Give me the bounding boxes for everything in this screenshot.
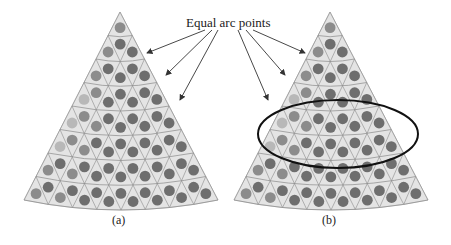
fuel-rod-circle: [67, 135, 78, 146]
fuel-rod-circle: [91, 87, 102, 98]
fuel-rod-circle: [139, 87, 150, 98]
fuel-rod-circle: [289, 145, 300, 156]
fuel-rod-circle: [301, 121, 312, 132]
fuel-rod-circle: [91, 121, 102, 132]
fuel-rod-circle: [325, 22, 336, 33]
fuel-rod-circle: [164, 168, 175, 179]
arrow-icon: [246, 30, 285, 75]
fuel-rod-circle: [55, 141, 66, 152]
fuel-rod-circle: [91, 171, 102, 182]
arrow-icon: [180, 30, 218, 100]
fuel-rod-circle: [337, 47, 348, 58]
fuel-rod-circle: [325, 122, 336, 133]
fuel-rod-circle: [103, 47, 114, 58]
fuel-rod-circle: [313, 63, 324, 74]
fuel-rod-circle: [386, 192, 397, 203]
fuel-rod-circle: [325, 72, 336, 83]
fuel-rod-circle: [115, 122, 126, 133]
fuel-rod-circle: [140, 137, 151, 148]
fuel-rod-circle: [277, 168, 288, 179]
fuel-rod-circle: [127, 146, 138, 157]
fuel-rod-circle: [139, 121, 150, 132]
fuel-rod-circle: [253, 165, 264, 176]
fuel-rod-circle: [103, 97, 114, 108]
fuel-rod-circle: [241, 188, 252, 199]
fuel-rod-circle: [338, 196, 349, 207]
fuel-rod-circle: [374, 185, 385, 196]
fuel-rod-circle: [152, 111, 163, 122]
fuel-rod-circle: [43, 182, 54, 193]
fuel-rod-circle: [253, 182, 264, 193]
fuel-rod-circle: [325, 138, 336, 149]
fuel-rod-circle: [337, 97, 348, 108]
fuel-rod-circle: [337, 113, 348, 124]
fuel-rod-circle: [115, 22, 126, 33]
fuel-rod-circle: [265, 192, 276, 203]
fuel-rod-circle: [349, 70, 360, 81]
fuel-rod-circle: [152, 145, 163, 156]
fuel-rod-circle: [103, 146, 114, 157]
fuel-rod-circle: [301, 137, 312, 148]
fuel-rod-circle: [139, 70, 150, 81]
fuel-rod-circle: [313, 146, 324, 157]
fuel-rod-circle: [164, 185, 175, 196]
fuel-rod-circle: [151, 94, 162, 105]
fuel-rod-circle: [350, 187, 361, 198]
fuel-rod-circle: [79, 145, 90, 156]
fuel-rod-circle: [337, 146, 348, 157]
fuel-rod-circle: [289, 94, 300, 105]
fuel-rod-circle: [277, 135, 288, 146]
fuel-rod-circle: [362, 195, 373, 206]
fuel-rod-circle: [152, 195, 163, 206]
fuel-rod-circle: [326, 188, 337, 199]
fuel-rod-circle: [79, 94, 90, 105]
fuel-rod-circle: [337, 63, 348, 74]
fuel-rod-circle: [55, 158, 66, 169]
fuel-rod-circle: [374, 118, 385, 129]
caption-a: (a): [112, 213, 125, 228]
fuel-rod-circle: [103, 113, 114, 124]
fuel-rod-circle: [289, 195, 300, 206]
fuel-rod-circle: [350, 171, 361, 182]
fuel-rod-circle: [103, 196, 114, 207]
fuel-rod-circle: [103, 163, 114, 174]
fuel-rod-circle: [349, 121, 360, 132]
fuel-rod-circle: [301, 171, 312, 182]
fuel-rod-circle: [79, 161, 90, 172]
arrow-icon: [238, 30, 268, 100]
fuel-rod-circle: [115, 72, 126, 83]
fuel-rod-circle: [164, 135, 175, 146]
fuel-rod-circle: [325, 89, 336, 100]
fuel-rod-circle: [301, 70, 312, 81]
arrow-icon: [253, 30, 305, 53]
fuel-rod-circle: [313, 196, 324, 207]
fuel-rod-circle: [374, 135, 385, 146]
fuel-rod-circle: [55, 192, 66, 203]
fuel-rod-circle: [188, 182, 199, 193]
fuel-rod-circle: [67, 185, 78, 196]
fuel-rod-circle: [176, 141, 187, 152]
fuel-rod-circle: [410, 188, 421, 199]
fuel-rod-circle: [128, 196, 139, 207]
fuel-rod-circle: [301, 87, 312, 98]
fuel-rod-circle: [277, 118, 288, 129]
fuel-rod-circle: [349, 87, 360, 98]
fan-sector-diagrams: [0, 0, 451, 245]
fuel-rod-circle: [127, 113, 138, 124]
fuel-rod-circle: [398, 165, 409, 176]
fuel-rod-circle: [67, 168, 78, 179]
fuel-rod-circle: [188, 165, 199, 176]
fuel-rod-circle: [79, 111, 90, 122]
equal-arc-points-label: Equal arc points: [186, 15, 270, 31]
fuel-rod-circle: [362, 145, 373, 156]
fuel-rod-circle: [128, 163, 139, 174]
fuel-rod-circle: [115, 39, 126, 50]
fuel-rod-circle: [43, 165, 54, 176]
fuel-rod-circle: [176, 192, 187, 203]
fuel-rod-circle: [325, 39, 336, 50]
fuel-rod-circle: [127, 63, 138, 74]
fuel-rod-circle: [103, 63, 114, 74]
arrow-icon: [147, 30, 205, 53]
fuel-rod-circle: [265, 158, 276, 169]
fuel-rod-circle: [176, 158, 187, 169]
